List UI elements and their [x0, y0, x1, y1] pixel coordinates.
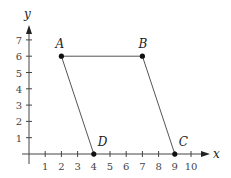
point-label-C: C	[179, 135, 188, 149]
x-tick-label: 1	[42, 161, 48, 172]
x-tick-label: 6	[123, 161, 129, 172]
y-tick-label: 2	[16, 116, 22, 127]
x-tick-label: 9	[172, 161, 178, 172]
point-D	[91, 151, 96, 156]
parallelogram-segments	[61, 56, 174, 154]
y-tick-label: 4	[16, 84, 22, 95]
y-tick-label: 1	[16, 133, 22, 144]
x-tick-label: 10	[185, 161, 198, 172]
point-C	[172, 151, 177, 156]
y-tick-label: 7	[16, 35, 22, 46]
x-axis-label: x	[213, 147, 220, 161]
point-A	[59, 54, 64, 59]
axes: x y	[22, 7, 220, 164]
x-axis-arrow-icon	[201, 151, 210, 157]
y-tick-label: 6	[16, 51, 22, 62]
x-tick-label: 7	[139, 161, 145, 172]
point-label-A: A	[54, 37, 64, 51]
x-tick-label: 4	[91, 161, 97, 172]
point-label-D: D	[97, 135, 108, 149]
y-axis-label: y	[23, 7, 31, 21]
segment-AD	[61, 56, 93, 154]
coordinate-diagram: x y 12345678910 1234567 ABCD	[0, 0, 231, 178]
y-axis-arrow-icon	[26, 25, 32, 34]
x-tick-label: 5	[107, 161, 113, 172]
x-tick-label: 8	[155, 161, 161, 172]
x-tick-label: 2	[58, 161, 64, 172]
point-label-B: B	[137, 37, 147, 51]
y-tick-label: 3	[16, 100, 22, 111]
point-B	[140, 54, 145, 59]
segment-BC	[142, 56, 174, 154]
y-tick-label: 5	[16, 68, 22, 79]
y-ticks: 1234567	[16, 35, 32, 144]
x-tick-label: 3	[74, 161, 80, 172]
